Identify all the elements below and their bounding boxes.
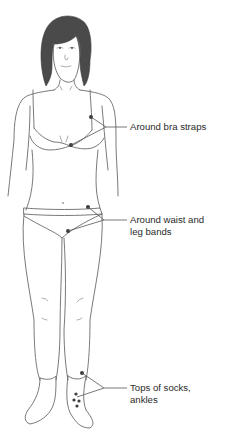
torso-right [80, 90, 118, 196]
right-leg-outer [86, 214, 102, 380]
label-line: leg bands [130, 226, 204, 238]
waist-right [96, 150, 100, 208]
underwear-leg-bands [24, 214, 102, 238]
left-arm-inner [26, 106, 30, 170]
nose [65, 55, 68, 60]
label-socks-ankles: Tops of socks, ankles [130, 382, 191, 406]
bra-strap-left [33, 90, 34, 128]
marker-ankle-1 [74, 392, 77, 395]
left-sock [25, 376, 56, 424]
torso-left [8, 90, 54, 196]
hair [41, 16, 91, 86]
right-leg-inner [64, 238, 68, 380]
marker-ankle-4 [75, 404, 78, 407]
label-line: Around bra straps [130, 121, 206, 133]
neck [54, 80, 80, 90]
left-leg-outer [23, 214, 40, 380]
label-line: ankles [130, 394, 191, 406]
marker-ankle-2 [72, 398, 75, 401]
right-arm-inner [102, 106, 108, 170]
leader-bra [71, 117, 127, 145]
bra-strap-right [90, 90, 92, 130]
label-line: Tops of socks, [130, 382, 191, 394]
label-line: Around waist and [130, 214, 204, 226]
mouth [61, 66, 71, 67]
marker-ankle-3 [77, 399, 80, 402]
label-waist-leg-bands: Around waist and leg bands [130, 214, 204, 238]
label-bra-straps: Around bra straps [130, 121, 206, 133]
left-leg-inner [56, 238, 62, 380]
